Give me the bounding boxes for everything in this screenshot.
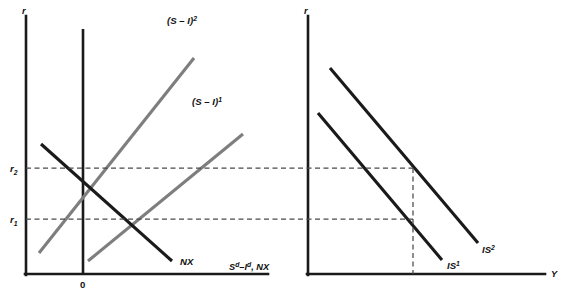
net-exports-curve-label: NX xyxy=(180,256,194,267)
is2-superscript: 2 xyxy=(490,244,495,251)
saving-investment-curve-2-label: (S – I)2 xyxy=(167,15,197,26)
si2-superscript: 2 xyxy=(192,15,197,22)
economics-figure: r r2 r1 0 (S – I)2 (S – I)1 NX Sd–Id, NX xyxy=(0,0,572,296)
right-y-axis-label: r xyxy=(304,6,308,16)
left-y-axis-label: r xyxy=(22,6,26,16)
left-origin-label: 0 xyxy=(80,279,85,290)
figure-canvas: r r2 r1 0 (S – I)2 (S – I)1 NX Sd–Id, NX xyxy=(0,0,572,296)
saving-investment-panel: r r2 r1 0 (S – I)2 (S – I)1 NX Sd–Id, NX xyxy=(10,6,270,290)
is-curve-1-label: IS1 xyxy=(447,260,460,271)
nx-suffix: , NX xyxy=(250,262,270,272)
left-x-axis-label: Sd–Id, NX xyxy=(229,261,270,272)
saving-investment-curve-1 xyxy=(88,134,243,261)
is1-superscript: 1 xyxy=(456,260,460,267)
r2-subscript: 2 xyxy=(13,169,18,176)
saving-investment-curve-1-label: (S – I)1 xyxy=(192,96,222,107)
left-tick-label-r1: r1 xyxy=(10,214,18,227)
si1-base: (S – I) xyxy=(192,96,218,107)
is-curve-2-label: IS2 xyxy=(482,244,495,255)
net-exports-curve xyxy=(41,144,172,261)
right-x-axis-label: Y xyxy=(551,269,558,279)
left-tick-label-r2: r2 xyxy=(10,163,18,176)
r1-subscript: 1 xyxy=(14,220,18,227)
si2-base: (S – I) xyxy=(167,15,193,26)
si1-superscript: 1 xyxy=(218,96,222,103)
is-curve-panel: r Y IS2 IS1 xyxy=(304,6,558,279)
is-curve-1 xyxy=(318,113,442,260)
saving-investment-curve-2 xyxy=(39,58,194,253)
